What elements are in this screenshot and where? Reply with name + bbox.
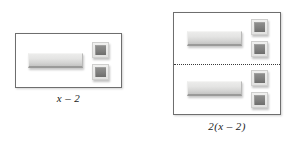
tile-panel-left bbox=[15, 33, 122, 88]
unit-tile bbox=[251, 19, 268, 35]
unit-tile-stack-right-bottom bbox=[251, 70, 268, 108]
unit-tile-stack-left bbox=[92, 42, 109, 80]
tile-panel-right bbox=[173, 12, 281, 115]
unit-tile bbox=[251, 92, 268, 108]
x-bar-tile bbox=[28, 53, 83, 68]
caption-left-expression: x – 2 bbox=[15, 92, 122, 104]
tile-row-left bbox=[16, 34, 121, 87]
unit-tile-stack-right-top bbox=[251, 19, 268, 57]
unit-tile bbox=[251, 70, 268, 86]
tile-row-right-bottom bbox=[174, 64, 280, 115]
unit-tile bbox=[92, 64, 109, 80]
x-bar-tile bbox=[187, 81, 242, 96]
tile-row-right-top bbox=[174, 13, 280, 64]
x-bar-tile bbox=[187, 31, 242, 46]
caption-right-expression: 2(x – 2) bbox=[173, 120, 281, 132]
unit-tile bbox=[92, 42, 109, 58]
unit-tile bbox=[251, 41, 268, 57]
